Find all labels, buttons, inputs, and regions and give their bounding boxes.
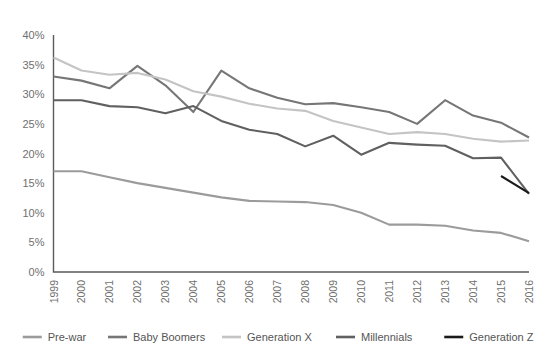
y-tick-label: 15% [22, 177, 44, 189]
legend-label-pre-war: Pre-war [48, 331, 87, 343]
chart-svg: 0%5%10%15%20%25%30%35%40% 19992000200120… [0, 0, 545, 355]
y-tick-label: 35% [22, 59, 44, 71]
y-tick-label: 20% [22, 148, 44, 160]
legend-label-generation-x: Generation X [247, 331, 312, 343]
series-lines [54, 58, 530, 242]
chart-axes [54, 35, 530, 272]
x-tick-label: 2013 [439, 280, 451, 304]
x-tick-label: 2004 [187, 280, 199, 304]
x-tick-label: 2015 [495, 280, 507, 304]
x-tick-label: 2011 [383, 280, 395, 303]
y-tick-label: 0% [29, 266, 45, 278]
series-line-generation-z [501, 176, 529, 193]
y-axis-tick-labels: 0%5%10%15%20%25%30%35%40% [22, 29, 44, 278]
chart-legend: Pre-warBaby BoomersGeneration XMillennia… [23, 331, 534, 343]
x-tick-label: 2012 [411, 280, 423, 304]
y-tick-label: 5% [29, 236, 45, 248]
x-tick-label: 2001 [103, 280, 115, 304]
x-tick-label: 1999 [48, 280, 60, 304]
x-tick-label: 2000 [75, 280, 87, 304]
x-tick-label: 2016 [523, 280, 535, 304]
x-tick-label: 2005 [215, 280, 227, 304]
x-tick-label: 2002 [131, 280, 143, 304]
line-chart: 0%5%10%15%20%25%30%35%40% 19992000200120… [0, 0, 545, 355]
legend-label-generation-z: Generation Z [469, 331, 533, 343]
legend-label-millennials: Millennials [361, 331, 413, 343]
y-tick-label: 40% [22, 29, 44, 41]
y-tick-label: 30% [22, 88, 44, 100]
x-tick-label: 2007 [271, 280, 283, 304]
x-tick-label: 2014 [467, 280, 479, 304]
legend-label-baby-boomers: Baby Boomers [133, 331, 206, 343]
x-tick-label: 2003 [159, 280, 171, 304]
series-line-generation-x [54, 58, 530, 142]
x-tick-label: 2010 [355, 280, 367, 304]
y-tick-label: 10% [22, 207, 44, 219]
series-line-pre-war [54, 171, 530, 241]
y-tick-label: 25% [22, 118, 44, 130]
x-axis-tick-labels: 1999200020012002200320042005200620072008… [48, 280, 536, 304]
x-tick-label: 2008 [299, 280, 311, 304]
x-tick-label: 2009 [327, 280, 339, 304]
series-line-baby-boomers [54, 66, 530, 138]
x-tick-label: 2006 [243, 280, 255, 304]
